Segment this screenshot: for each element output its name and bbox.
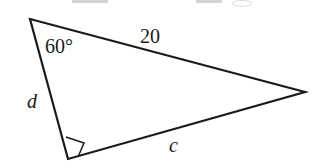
geometry-figure: 60° 20 d c [0,0,318,168]
angle-label-60: 60° [45,36,73,56]
side-label-top-20: 20 [140,26,160,46]
right-angle-marker-icon [66,137,84,157]
side-label-left-d: d [27,91,37,111]
side-label-bottom-c: c [169,135,178,155]
